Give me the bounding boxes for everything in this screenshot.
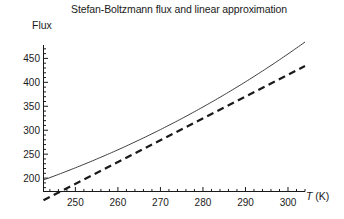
x-tick-marks [50,187,305,192]
series-stefan-boltzmann-curve [44,42,306,180]
axis-lines [44,45,306,192]
plot-area [0,0,344,219]
chart-figure: Stefan-Boltzmann flux and linear approxi… [0,0,344,219]
y-tick-marks [44,49,49,188]
series-linear-approximation [44,66,306,200]
